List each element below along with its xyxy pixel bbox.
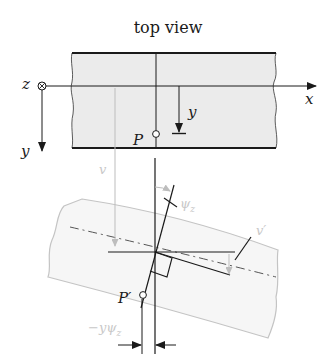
point-P-prime-label: P′	[117, 289, 132, 307]
y-offset-label: y	[187, 103, 197, 121]
rotation-psi-arc	[155, 187, 170, 191]
z-axis-label: z	[21, 75, 30, 93]
beam-deflection-diagram: top view x z y P y v ψz	[0, 0, 332, 364]
view-title: top view	[134, 18, 203, 37]
shift-label: −yψz	[88, 320, 121, 338]
point-P	[153, 131, 160, 138]
deflection-v-label: v	[99, 162, 107, 177]
point-P-label: P	[132, 131, 144, 149]
slope-v-prime-label: v′	[256, 223, 266, 238]
rotation-psi-label: ψz	[180, 196, 195, 214]
x-axis-label: x	[305, 90, 314, 108]
point-P-prime	[140, 292, 147, 299]
z-axis-into-page-icon	[38, 82, 46, 90]
y-axis-label: y	[20, 142, 30, 160]
deformed-beam	[48, 199, 278, 338]
